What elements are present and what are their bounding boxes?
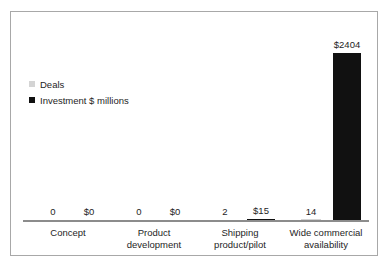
category-line-1: Shipping [222,227,259,238]
category-label-shipping-product-pilot: Shipping product/pilot [197,227,283,250]
category-label-wide-commercial-availability: Wide commercial availability [283,227,369,250]
bar-investment-wide-commercial-availability [333,53,361,220]
category-label-product-development: Product development [111,227,197,250]
value-label-investment-wide-commercial-availability: $2404 [327,39,367,50]
category-line-1: Product [138,227,171,238]
value-label-investment-product-development: $0 [155,206,195,217]
category-line-1: Wide commercial [290,227,363,238]
category-line-1: Concept [50,227,85,238]
category-line-2: product/pilot [197,239,283,251]
category-line-2: development [111,239,197,251]
value-label-deals-shipping-product-pilot: 2 [211,206,239,217]
category-line-2: availability [283,239,369,251]
value-label-investment-shipping-product-pilot: $15 [241,205,281,216]
plot-area: Deals Investment $ millions 0 $0 Concept… [11,12,379,257]
chart-frame: Deals Investment $ millions 0 $0 Concept… [10,11,378,256]
value-label-deals-wide-commercial-availability: 14 [297,206,325,217]
category-axis-line [23,220,369,222]
value-label-deals-product-development: 0 [125,206,153,217]
category-label-concept: Concept [25,227,111,239]
value-label-deals-concept: 0 [39,206,67,217]
value-label-investment-concept: $0 [69,206,109,217]
